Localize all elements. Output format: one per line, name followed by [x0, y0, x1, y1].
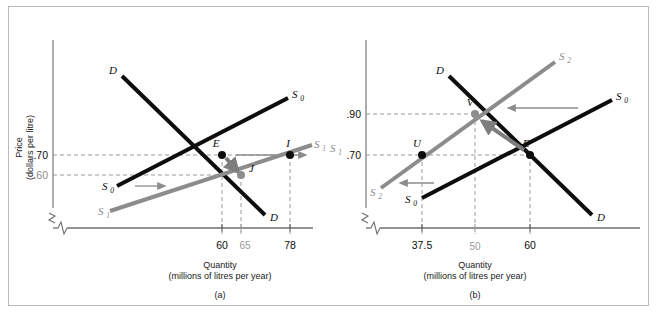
supply1-edge-text: S	[330, 142, 336, 154]
x-axis-title-a-line2: (millions of litres per year)	[168, 271, 271, 281]
y-tick-b-0: .90	[346, 108, 361, 120]
point-label-E-a: E	[212, 137, 220, 149]
supply1-edge-sub: 1	[338, 148, 342, 157]
point-label-I-a: I	[285, 137, 291, 149]
x-tick-a-1: 65	[239, 240, 251, 251]
panel-a-axes	[49, 40, 313, 234]
panel-b-points	[418, 110, 534, 159]
y-axis-title-line2: (dollars per litre)	[25, 115, 35, 180]
curve-label-supply1-bottom-a: S 1	[98, 205, 110, 220]
demand-top-a-text: D	[108, 64, 117, 76]
y-axis-title-line1: Price	[14, 137, 24, 158]
point-J-a	[237, 171, 245, 179]
x-tick-b-2: 60	[524, 239, 536, 251]
supply0-top-a-sub: 0	[300, 94, 304, 103]
curve-label-supply0-top-b: S 0	[616, 90, 628, 105]
supply0-bottom-b-sub: 0	[413, 199, 417, 208]
supply0-curve-a	[117, 98, 288, 186]
supply0-curve-b	[422, 100, 612, 198]
point-E-b	[526, 151, 534, 159]
curve-label-demand-top-a: D	[108, 64, 117, 76]
supply0-top-a-text: S	[292, 88, 298, 100]
curve-label-supply1-edge: S 1	[330, 142, 342, 157]
curve-label-supply2-bottom-b: S 2	[370, 186, 382, 201]
supply0-top-b-sub: 0	[624, 96, 628, 105]
x-axis-title-b: Quantity (millions of litres per year)	[360, 260, 590, 282]
panel-letter-b: (b)	[360, 290, 590, 300]
panel-a-curves	[110, 76, 312, 215]
curve-label-supply1-top-a: S 1	[314, 138, 326, 153]
x-tick-b-1: 50	[469, 241, 481, 252]
supply0-bottom-b-text: S	[405, 193, 411, 205]
supply2-bottom-b-sub: 2	[378, 192, 382, 201]
point-E-a	[218, 151, 226, 159]
y-tick-b-1: .70	[346, 149, 361, 161]
supply0-bottom-a-text: S	[102, 180, 108, 192]
curve-label-supply0-top-a: S 0	[292, 88, 304, 103]
supply2-curve-b	[381, 62, 555, 188]
panel-b-arrows	[400, 108, 578, 183]
point-label-E-b: E	[522, 137, 530, 149]
demand-bottom-a-text: D	[269, 211, 278, 223]
supply2-top-b-text: S	[559, 50, 565, 62]
supply1-top-a-text: S	[314, 138, 320, 150]
panel-a-guidelines	[53, 155, 290, 234]
curve-label-demand-bottom-b: D	[596, 211, 605, 223]
supply2-bottom-b-text: S	[370, 186, 376, 198]
supply0-bottom-a-sub: 0	[110, 186, 114, 195]
supply1-top-a-sub: 1	[322, 144, 326, 153]
supply1-bottom-a-sub: 1	[106, 211, 110, 220]
demand-top-b-text: D	[435, 64, 444, 76]
point-V-b	[471, 110, 479, 118]
supply2-top-b-sub: 2	[567, 56, 571, 65]
point-I-a	[286, 151, 294, 159]
point-label-U-b: U	[413, 137, 422, 149]
x-axis-title-a: Quantity (millions of litres per year)	[105, 260, 335, 282]
panel-b-axes	[362, 40, 640, 234]
x-axis-title-b-line2: (millions of litres per year)	[423, 271, 526, 281]
supply1-bottom-a-text: S	[98, 205, 104, 217]
panel-letter-a: (a)	[105, 290, 335, 300]
curve-label-demand-top-b: D	[435, 64, 444, 76]
x-axis-title-b-line1: Quantity	[458, 260, 492, 270]
figure-container: .70 .60 60 65 78 D D S 0 S 0 S 1 S 1 E J…	[0, 0, 657, 320]
x-tick-a-0: 60	[216, 239, 228, 251]
demand-bottom-b-text: D	[596, 211, 605, 223]
y-axis-title: Price (dollars per litre)	[14, 115, 36, 180]
curve-label-supply2-top-b: S 2	[559, 50, 571, 65]
curve-label-supply0-bottom-b: S 0	[405, 193, 417, 208]
x-tick-b-0: 37.5	[412, 239, 433, 251]
x-tick-a-2: 78	[284, 239, 296, 251]
curve-label-supply0-bottom-a: S 0	[102, 180, 114, 195]
supply0-top-b-text: S	[616, 90, 622, 102]
point-U-b	[418, 151, 426, 159]
x-axis-title-a-line1: Quantity	[203, 260, 237, 270]
curve-label-demand-bottom-a: D	[269, 211, 278, 223]
